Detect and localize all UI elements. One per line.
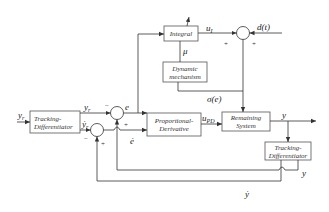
sigma-line	[178, 82, 243, 91]
td-left-label-1: Tracking-	[34, 115, 62, 123]
sign-e-plus: +	[124, 121, 128, 129]
integral-block: Integral	[164, 26, 198, 41]
adaptive-arrow	[187, 17, 189, 26]
remaining-label-2: System	[236, 122, 255, 130]
signal-e-dot: ė	[130, 136, 134, 146]
tracking-differentiator-left: Tracking- Differentiator	[30, 111, 80, 133]
sum-junction-disturbance	[237, 27, 250, 40]
sign-edot-plus: +	[101, 140, 105, 148]
signal-input: yr	[17, 110, 25, 121]
td-right-label-1: Tracking-	[274, 144, 302, 152]
signal-y-feedback: y	[301, 168, 306, 178]
td-left-label-2: Differentiator	[33, 123, 73, 131]
signal-upd: uPD	[202, 113, 215, 124]
signal-mu: μ	[182, 46, 188, 56]
signal-y-dot: ẏ	[244, 189, 250, 199]
tracking-differentiator-right: Tracking- Differentiator	[265, 142, 311, 160]
sign-e-minus: −	[105, 102, 109, 110]
sign-d-plus: +	[252, 40, 256, 48]
dynamic-mechanism-block: Dynamic mechanism	[163, 62, 207, 82]
td-right-label-2: Differentiator	[268, 152, 308, 160]
pd-label-2: Derivative	[158, 125, 189, 133]
pd-label-1: Proportional-	[154, 117, 194, 125]
signal-y: y	[281, 110, 286, 120]
sign-edot-minus: −	[84, 135, 88, 143]
signal-yr: yr	[83, 102, 91, 113]
integral-label: Integral	[169, 30, 193, 38]
proportional-derivative-block: Proportional- Derivative	[147, 113, 201, 136]
signal-ui: uI	[206, 23, 214, 34]
sum-junction-error	[111, 107, 124, 120]
signal-e: e	[125, 102, 129, 112]
y-dot-feedback-line	[97, 137, 281, 182]
control-diagram: Integral Dynamic mechanism Tracking- Dif…	[0, 0, 329, 212]
signal-disturbance: d(t)	[257, 22, 270, 32]
dynamic-label-2: mechanism	[169, 73, 201, 81]
remaining-label-1: Remaining	[230, 114, 262, 122]
signal-yr-dot: ẏr	[81, 119, 89, 130]
remaining-system-block: Remaining System	[222, 112, 270, 131]
dynamic-label-1: Dynamic	[171, 65, 198, 73]
sum-junction-error-rate	[91, 124, 104, 137]
e-to-integral-line	[138, 34, 164, 113]
sign-ui-plus: +	[224, 40, 228, 48]
signal-sigma: σ(e)	[207, 94, 221, 104]
